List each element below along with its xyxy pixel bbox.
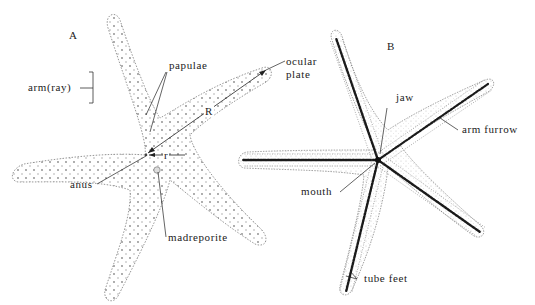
illustration-canvas [0,0,535,305]
arm-furrow-leader [440,118,458,130]
tube-feet-label: tube feet [364,272,408,284]
panel-label-a: A [69,29,77,41]
mouth-center [375,157,381,163]
ocular-label-line2: plate [286,68,310,80]
jaw-label: jaw [396,91,414,103]
furrow-upper-right [378,84,488,160]
ocular-plate-leader [266,61,285,70]
mouth-label: mouth [301,185,332,197]
arm-bracket [80,72,93,103]
panel-label-b: B [387,40,394,52]
madreporite-plate [154,167,160,173]
starfish-b [239,30,494,295]
r-minor-label: r [163,149,169,161]
arm-furrow-label: arm furrow [462,123,518,135]
starfish-anatomy-diagram: A B arm(ray) papulae ocular plate R r an… [0,0,535,305]
papulae-label: papulae [169,59,207,71]
madreporite-label: madreporite [168,231,228,243]
anus-dot [145,154,148,157]
r-major-label: R [204,105,214,117]
furrow-upper-left [336,38,378,160]
arm-ray-label: arm(ray) [28,81,71,93]
starfish-a-body [12,14,271,300]
papulae-leader-1 [146,72,166,115]
ocular-label-line1: ocular [286,55,317,67]
furrow-right [378,160,480,232]
anus-label: anus [70,178,93,190]
starfish-b-body [239,30,494,295]
